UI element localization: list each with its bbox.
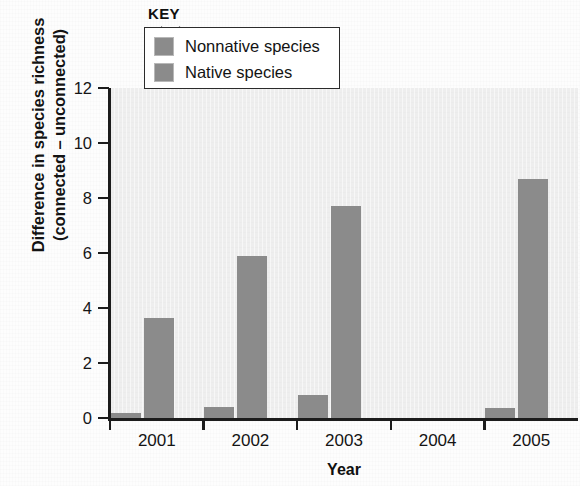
x-axis-tick-label: 2002: [215, 432, 285, 449]
y-axis-tick: [98, 142, 109, 145]
y-axis-tick: [98, 307, 109, 310]
x-axis-tick: [390, 420, 393, 430]
bar-2005-nonnative: [485, 408, 515, 418]
legend-entry-native: Native species: [154, 59, 331, 85]
y-axis-tick-label: 12: [58, 80, 92, 97]
y-axis-tick-label: 10: [58, 135, 92, 152]
y-axis-title-line-1: Difference in species richness: [28, 18, 49, 253]
y-axis-tick: [98, 417, 109, 420]
plot-area: [110, 88, 578, 418]
y-axis-tick: [98, 252, 109, 255]
x-axis-tick: [109, 420, 112, 430]
y-axis-tick: [98, 87, 109, 90]
bar-2002-nonnative: [204, 407, 234, 418]
x-axis-tick-label: 2004: [403, 432, 473, 449]
y-axis-tick-label: 8: [58, 190, 92, 207]
y-axis-tick-label: 6: [58, 245, 92, 262]
x-axis-tick-label: 2001: [122, 432, 192, 449]
bar-2003-native: [331, 206, 361, 418]
x-axis-title: Year: [110, 461, 578, 479]
y-axis-tick-label: 2: [58, 355, 92, 372]
legend-key-title: KEY: [148, 5, 180, 22]
legend-swatch-native: [154, 63, 174, 82]
bar-chart-figure: Difference in species richness (connecte…: [0, 0, 580, 486]
legend-label-native: Native species: [185, 63, 292, 82]
bar-2005-native: [518, 179, 548, 418]
y-axis-tick: [98, 197, 109, 200]
x-axis-tick: [202, 420, 205, 430]
bar-2001-native: [144, 318, 174, 418]
y-axis-tick-label: 0: [58, 410, 92, 427]
legend-entry-nonnative: Nonnative species: [154, 33, 331, 59]
x-axis-tick: [483, 420, 486, 430]
x-axis-line: [108, 418, 578, 421]
legend-swatch-nonnative: [154, 37, 174, 56]
x-axis-tick: [296, 420, 299, 430]
x-axis-tick-label: 2005: [496, 432, 566, 449]
bar-2003-nonnative: [298, 395, 328, 418]
y-axis-tick-label: 4: [58, 300, 92, 317]
bar-2002-native: [237, 256, 267, 418]
y-axis-tick: [98, 362, 109, 365]
legend-box: Nonnative species Native species: [144, 27, 340, 89]
legend-label-nonnative: Nonnative species: [185, 37, 320, 56]
x-axis-tick-label: 2003: [309, 432, 379, 449]
